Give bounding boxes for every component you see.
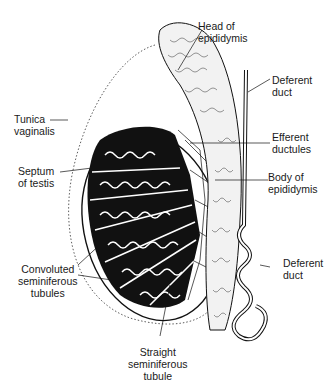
label-line: duct xyxy=(272,86,312,98)
label-line: Deferent xyxy=(272,74,312,86)
label-line: vaginalis xyxy=(14,125,55,137)
label-line: seminiferous xyxy=(18,275,78,287)
label-line: Convoluted xyxy=(18,263,78,275)
label-tunica-vaginalis: Tunica vaginalis xyxy=(14,113,55,137)
label-line: ductules xyxy=(272,143,311,155)
label-body-of-epididymis: Body of epididymis xyxy=(268,171,318,195)
label-line: of testis xyxy=(18,177,54,189)
label-line: Efferent xyxy=(272,131,311,143)
label-deferent-duct-bottom: Deferent duct xyxy=(283,257,323,281)
label-line: tubule xyxy=(128,370,188,382)
label-line: Body of xyxy=(268,171,318,183)
label-line: epididymis xyxy=(198,32,248,44)
label-efferent-ductules: Efferent ductules xyxy=(272,131,311,155)
label-line: tubules xyxy=(18,287,78,299)
label-straight-seminiferous-tubule: Straight seminiferous tubule xyxy=(128,346,188,382)
label-line: Straight xyxy=(128,346,188,358)
label-line: Septum xyxy=(18,165,54,177)
label-deferent-duct-top: Deferent duct xyxy=(272,74,312,98)
label-convoluted-seminiferous-tubules: Convoluted seminiferous tubules xyxy=(18,263,78,299)
label-head-of-epididymis: Head of epididymis xyxy=(198,20,248,44)
label-line: Head of xyxy=(198,20,248,32)
label-line: seminiferous xyxy=(128,358,188,370)
label-septum-of-testis: Septum of testis xyxy=(18,165,54,189)
label-line: duct xyxy=(283,269,323,281)
label-line: Deferent xyxy=(283,257,323,269)
label-line: Tunica xyxy=(14,113,55,125)
label-line: epididymis xyxy=(268,183,318,195)
